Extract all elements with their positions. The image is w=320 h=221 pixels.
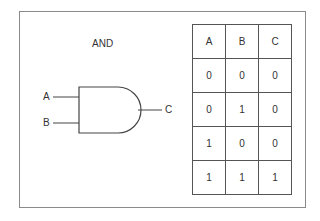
table-row: 0 0 0 bbox=[193, 59, 292, 93]
input-b-label: B bbox=[43, 117, 50, 128]
table-cell: 1 bbox=[193, 161, 226, 195]
table-cell: 1 bbox=[226, 93, 259, 127]
table-cell: 0 bbox=[259, 59, 292, 93]
table-row: 1 1 1 bbox=[193, 161, 292, 195]
table-cell: 1 bbox=[193, 127, 226, 161]
table-cell: 1 bbox=[259, 161, 292, 195]
header-cell: B bbox=[226, 25, 259, 59]
table-cell: 0 bbox=[193, 93, 226, 127]
output-c-label: C bbox=[165, 104, 172, 115]
table-cell: 0 bbox=[259, 127, 292, 161]
table-cell: 0 bbox=[226, 127, 259, 161]
table-cell: 1 bbox=[226, 161, 259, 195]
truth-table: A B C 0 0 0 0 1 0 1 0 0 1 1 1 bbox=[192, 24, 292, 195]
table-row: 0 1 0 bbox=[193, 93, 292, 127]
input-a-label: A bbox=[43, 91, 50, 102]
table-row: 1 0 0 bbox=[193, 127, 292, 161]
table-header-row: A B C bbox=[193, 25, 292, 59]
header-cell: C bbox=[259, 25, 292, 59]
table-cell: 0 bbox=[226, 59, 259, 93]
table-cell: 0 bbox=[193, 59, 226, 93]
table-cell: 0 bbox=[259, 93, 292, 127]
header-cell: A bbox=[193, 25, 226, 59]
